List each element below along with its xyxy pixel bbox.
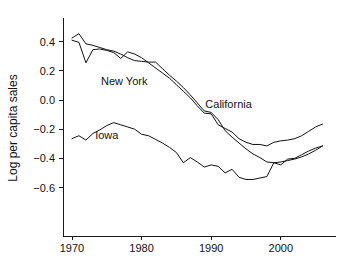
y-tick-label: −0.2 <box>33 123 55 135</box>
series-label-iowa: Iowa <box>95 129 119 141</box>
line-chart: 0.40.20.0−0.2−0.4−0.6 1970198019902000 N… <box>0 0 350 275</box>
series-label-new-york: New York <box>101 75 148 87</box>
series-line-new-york <box>72 34 323 163</box>
y-axis-ticks: 0.40.20.0−0.2−0.4−0.6 <box>33 36 63 194</box>
y-tick-label: 0.4 <box>40 36 55 48</box>
x-tick-label: 1990 <box>199 242 223 254</box>
x-axis-ticks: 1970198019902000 <box>60 236 293 254</box>
y-tick-label: −0.4 <box>33 152 55 164</box>
y-axis-title: Log per capita sales <box>6 74 20 181</box>
series-label-california: California <box>205 98 252 110</box>
x-tick-label: 1970 <box>60 242 84 254</box>
x-tick-label: 1980 <box>129 242 153 254</box>
y-tick-label: 0.2 <box>40 65 55 77</box>
chart-container: 0.40.20.0−0.2−0.4−0.6 1970198019902000 N… <box>0 0 350 275</box>
x-tick-label: 2000 <box>269 242 293 254</box>
series-group <box>72 34 323 180</box>
y-tick-label: 0.0 <box>40 94 55 106</box>
y-tick-label: −0.6 <box>33 182 55 194</box>
